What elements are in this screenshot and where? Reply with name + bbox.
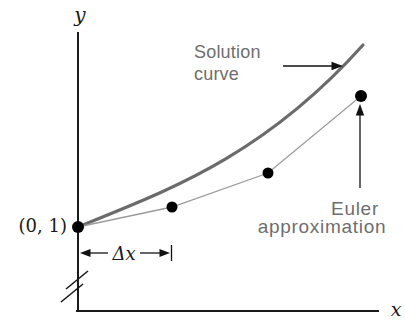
solution-curve-label: Solution curve xyxy=(194,42,261,84)
solution-curve-label-line2: curve xyxy=(194,64,239,84)
euler-point-3 xyxy=(355,90,367,102)
figure-canvas: y x (0, 1) Δx Solution curve Euler appro… xyxy=(0,0,405,326)
euler-point-2 xyxy=(263,168,274,179)
x-axis-label: x xyxy=(391,298,402,320)
euler-approximation-label-line2: approximation xyxy=(258,216,386,237)
y-axis-label: y xyxy=(73,3,86,27)
initial-point-label: (0, 1) xyxy=(19,215,67,236)
solution-curve-label-line1: Solution xyxy=(194,42,261,62)
solution-curve-arrow-icon xyxy=(283,62,343,70)
euler-point-1 xyxy=(167,202,178,213)
euler-method-figure: y x (0, 1) Δx Solution curve Euler appro… xyxy=(0,0,405,326)
euler-approximation-arrow-icon xyxy=(356,104,364,188)
euler-point-initial xyxy=(72,221,84,233)
delta-x-label: Δx xyxy=(111,243,135,264)
y-axis-break-icon xyxy=(61,271,88,302)
euler-approximation-label: Euler approximation xyxy=(258,198,386,237)
